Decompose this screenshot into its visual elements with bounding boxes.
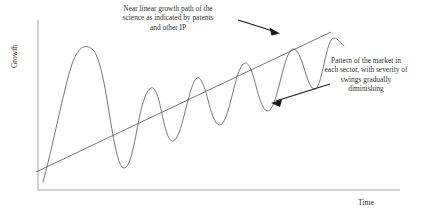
plot-area — [0, 0, 439, 217]
damped-oscillation-growth-diagram: Near linear growth path of the science a… — [0, 0, 439, 217]
annotation-growth-path: Near linear growth path of the science a… — [104, 4, 232, 32]
y-axis-label: Growth — [10, 34, 19, 80]
trend-line — [36, 32, 331, 172]
oscillating-market-curve — [43, 38, 344, 182]
annotation-arrow-growth-path-head — [270, 28, 281, 36]
annotation-market-pattern: Pattern of the market in each sector, wi… — [300, 56, 432, 93]
x-axis-label: Time — [358, 198, 374, 207]
